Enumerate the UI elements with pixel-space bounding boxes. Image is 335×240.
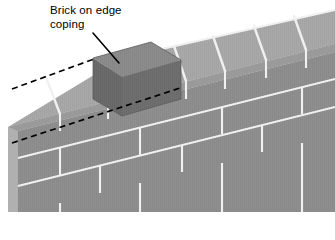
callout-label-brick-on-edge-coping: Brick on edge coping [50,3,155,31]
wall-illustration [0,0,335,240]
wall-end-face [8,127,18,212]
brick-wall-diagram: Brick on edge coping [0,0,335,240]
